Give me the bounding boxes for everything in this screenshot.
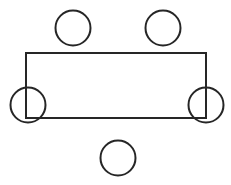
seating-diagram-canvas bbox=[0, 0, 231, 185]
table-rectangle[interactable] bbox=[26, 53, 206, 118]
seat-top-right[interactable] bbox=[146, 11, 181, 46]
seat-bottom-center[interactable] bbox=[101, 141, 136, 176]
seat-top-left[interactable] bbox=[56, 11, 91, 46]
seating-diagram-svg bbox=[0, 0, 231, 185]
